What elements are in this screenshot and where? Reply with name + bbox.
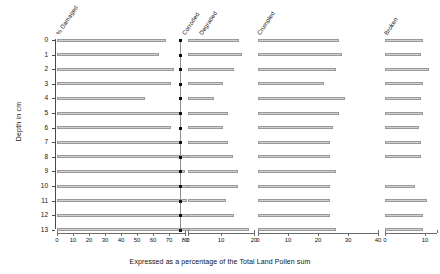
data-bar <box>57 141 182 144</box>
data-bar <box>258 68 336 71</box>
y-axis-tick-label: 13 <box>22 226 48 233</box>
y-axis-line <box>55 39 56 229</box>
data-bar <box>57 39 166 42</box>
data-bar <box>385 112 423 115</box>
x-axis-tick <box>121 233 122 236</box>
y-axis-tick-label: 10 <box>22 182 48 189</box>
data-marker <box>179 156 182 159</box>
data-bar <box>188 97 214 100</box>
x-axis-tick <box>169 233 170 236</box>
x-axis-tick-label: 20 <box>311 237 325 243</box>
data-bar <box>57 68 174 71</box>
y-axis-tick-label: 1 <box>22 51 48 58</box>
y-axis-tick <box>52 55 55 56</box>
data-bar <box>385 82 423 85</box>
x-axis-tick-label: 0 <box>50 237 64 243</box>
y-axis-tick <box>52 186 55 187</box>
data-bar <box>385 141 421 144</box>
data-bar <box>188 141 228 144</box>
x-axis-tick-label: 10 <box>214 237 228 243</box>
x-axis-tick-label: 10 <box>418 237 432 243</box>
data-bar <box>57 228 191 231</box>
data-marker <box>179 112 182 115</box>
data-bar <box>385 39 423 42</box>
data-bar <box>258 126 333 129</box>
y-axis-tick <box>52 157 55 158</box>
data-bar <box>385 53 421 56</box>
x-axis-tick <box>153 233 154 236</box>
data-bar <box>258 214 330 217</box>
x-axis-tick <box>73 233 74 236</box>
x-axis-tick-label: 10 <box>66 237 80 243</box>
x-axis-tick-label: 30 <box>341 237 355 243</box>
x-axis-tick <box>89 233 90 236</box>
y-axis-tick-label: 6 <box>22 124 48 131</box>
data-bar <box>57 97 145 100</box>
data-bar <box>385 155 421 158</box>
data-bar <box>385 199 427 202</box>
x-axis-tick <box>185 233 186 236</box>
data-marker <box>179 127 182 130</box>
y-axis-tick-label: 8 <box>22 153 48 160</box>
data-marker <box>179 54 182 57</box>
data-bar <box>258 185 330 188</box>
data-bar <box>258 141 330 144</box>
data-marker <box>179 214 182 217</box>
y-axis-tick-label: 5 <box>22 109 48 116</box>
data-bar <box>57 155 198 158</box>
data-bar <box>258 170 336 173</box>
y-axis-tick <box>52 40 55 41</box>
y-axis-tick <box>52 230 55 231</box>
data-bar <box>188 170 238 173</box>
y-axis-tick <box>52 98 55 99</box>
data-bar <box>385 97 421 100</box>
y-axis-tick <box>52 113 55 114</box>
data-marker <box>179 229 182 232</box>
data-bar <box>188 39 239 42</box>
data-bar <box>385 228 423 231</box>
data-marker <box>179 200 182 203</box>
y-axis-tick <box>52 215 55 216</box>
data-bar <box>188 82 223 85</box>
data-bar <box>258 155 330 158</box>
x-axis-tick-label: 40 <box>114 237 128 243</box>
x-axis-tick-label: 0 <box>181 237 195 243</box>
data-bar <box>258 112 339 115</box>
x-axis-tick <box>378 233 379 236</box>
data-marker <box>179 97 182 100</box>
data-bar <box>188 68 234 71</box>
data-bar <box>57 199 187 202</box>
data-marker <box>179 141 182 144</box>
x-axis-tick <box>425 233 426 236</box>
x-axis-tick-label: 30 <box>98 237 112 243</box>
data-marker <box>179 39 182 42</box>
data-bar <box>188 126 223 129</box>
data-bar <box>258 199 330 202</box>
y-axis-tick <box>52 171 55 172</box>
data-bar <box>385 126 419 129</box>
data-bar <box>188 53 242 56</box>
data-marker <box>179 170 182 173</box>
x-axis-tick-label: 10 <box>281 237 295 243</box>
data-marker <box>179 68 182 71</box>
x-axis-tick-label: 20 <box>82 237 96 243</box>
x-axis-tick-label: 0 <box>251 237 265 243</box>
data-bar <box>188 155 233 158</box>
x-axis-tick <box>258 233 259 236</box>
y-axis-tick-label: 12 <box>22 211 48 218</box>
data-marker <box>179 83 182 86</box>
data-bar <box>385 68 429 71</box>
y-axis-tick-label: 9 <box>22 167 48 174</box>
data-bar <box>57 170 185 173</box>
x-axis-tick <box>288 233 289 236</box>
y-axis-tick-label: 3 <box>22 80 48 87</box>
x-axis-tick <box>221 233 222 236</box>
y-axis-tick <box>52 69 55 70</box>
data-bar <box>57 53 159 56</box>
y-axis-tick <box>52 142 55 143</box>
panel-title: % Damaged <box>55 5 79 36</box>
data-bar <box>188 185 238 188</box>
panel-title-secondary: Degraded <box>198 10 218 36</box>
data-bar <box>188 112 228 115</box>
y-axis-tick <box>52 201 55 202</box>
